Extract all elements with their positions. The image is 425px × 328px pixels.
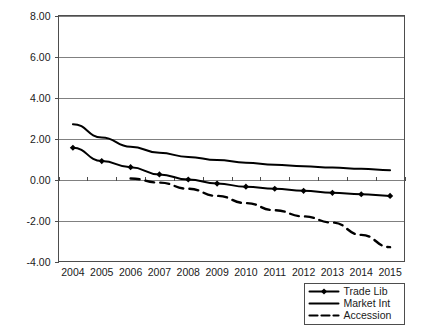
x-axis-tick-label: 2005 xyxy=(90,266,114,278)
x-axis-tick-label: 2004 xyxy=(61,266,85,278)
y-axis-tick-label: -2.00 xyxy=(27,215,51,227)
x-axis-tick-label: 2015 xyxy=(378,266,402,278)
x-axis-tick-label: 2012 xyxy=(292,266,316,278)
x-axis-tick-label: 2008 xyxy=(177,266,201,278)
chart-container: 8.006.004.002.000.00-2.00-4.00 200420052… xyxy=(0,0,425,328)
x-axis-tick-label: 2006 xyxy=(119,266,143,278)
x-axis-tick-label: 2013 xyxy=(321,266,345,278)
legend-label-market-int: Market Int xyxy=(344,297,391,309)
legend-label-trade-lib: Trade Lib xyxy=(344,285,388,297)
chart-background xyxy=(0,0,425,328)
y-axis-tick-label: 6.00 xyxy=(30,51,51,63)
y-axis-tick-label: 4.00 xyxy=(30,92,51,104)
x-axis-tick-label: 2007 xyxy=(148,266,172,278)
x-axis-tick-label: 2010 xyxy=(234,266,258,278)
x-axis-tick-label: 2011 xyxy=(263,266,286,278)
y-axis-tick-label: -4.00 xyxy=(27,256,51,268)
x-axis-tick-label: 2009 xyxy=(205,266,229,278)
y-axis-tick-label: 0.00 xyxy=(30,174,51,186)
y-axis-tick-label: 8.00 xyxy=(30,10,51,22)
y-axis-tick-label: 2.00 xyxy=(30,133,51,145)
line-chart: 8.006.004.002.000.00-2.00-4.00 200420052… xyxy=(0,0,425,328)
legend-label-accession: Accession xyxy=(344,309,392,321)
chart-legend: Trade LibMarket IntAccession xyxy=(305,284,405,325)
x-axis-tick-label: 2014 xyxy=(350,266,374,278)
